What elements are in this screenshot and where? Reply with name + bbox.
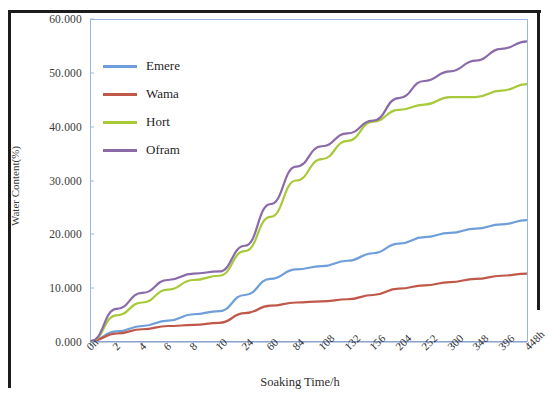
legend-item-hort[interactable]: Hort: [103, 108, 233, 136]
legend-item-emere[interactable]: Emere: [103, 52, 233, 80]
legend-color-swatch: [103, 65, 137, 68]
y-axis-tick-label: 40.000: [49, 121, 82, 133]
legend-color-swatch: [103, 149, 137, 152]
y-axis-tick: [90, 180, 94, 181]
legend-color-swatch: [103, 93, 137, 96]
y-axis-labels: 0.00010.00020.00030.00040.00050.00060.00…: [30, 19, 86, 342]
y-axis-tick: [90, 234, 94, 235]
y-axis-title: Water Content(%): [9, 126, 21, 246]
y-axis-tick-label: 50.000: [49, 67, 82, 79]
legend-item-wama[interactable]: Wama: [103, 80, 233, 108]
y-axis-tick-label: 10.000: [49, 282, 82, 294]
x-axis-title: Soaking Time/h: [190, 375, 410, 390]
y-axis-tick: [90, 126, 94, 127]
legend-label: Wama: [146, 86, 179, 102]
x-axis-labels: 0h24681024608410813215620425230034839644…: [90, 344, 528, 378]
figure-border-right: [537, 10, 540, 310]
legend-color-swatch: [103, 121, 137, 124]
y-axis-tick-label: 30.000: [49, 175, 82, 187]
legend-label: Hort: [146, 114, 170, 130]
y-axis-tick-label: 60.000: [49, 13, 82, 25]
y-axis-tick: [90, 342, 94, 343]
legend-label: Emere: [146, 58, 180, 74]
legend-label: Ofram: [146, 142, 180, 158]
y-axis-tick: [90, 288, 94, 289]
y-axis-tick: [90, 72, 94, 73]
chart-legend: EmereWamaHortOfram: [103, 52, 233, 164]
legend-item-ofram[interactable]: Ofram: [103, 136, 233, 164]
y-axis-tick: [90, 19, 94, 20]
chart-figure: 0.00010.00020.00030.00040.00050.00060.00…: [0, 0, 549, 397]
y-axis-tick-label: 20.000: [49, 228, 82, 240]
y-axis-tick-label: 0.000: [55, 336, 82, 348]
